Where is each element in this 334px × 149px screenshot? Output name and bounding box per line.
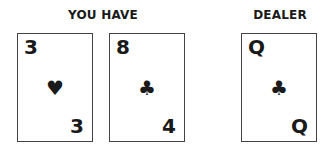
card-rank-top: Q: [248, 37, 265, 57]
card-rank-top: 8: [116, 37, 130, 57]
player-card-2[interactable]: 8 ♣ 4: [109, 33, 185, 142]
card-rank-bottom: Q: [291, 116, 308, 136]
dealer-card-1[interactable]: Q ♣ Q: [241, 33, 317, 142]
dealer-hand-label: DEALER: [245, 8, 315, 22]
club-suit-icon: ♣: [270, 78, 288, 98]
heart-suit-icon: ♥: [46, 78, 64, 98]
club-suit-icon: ♣: [138, 78, 156, 98]
player-card-1[interactable]: 3 ♥ 3: [17, 33, 93, 142]
player-hand-label: YOU HAVE: [60, 8, 146, 22]
card-rank-bottom: 4: [162, 116, 176, 136]
card-rank-bottom: 3: [70, 116, 84, 136]
card-rank-top: 3: [24, 37, 38, 57]
